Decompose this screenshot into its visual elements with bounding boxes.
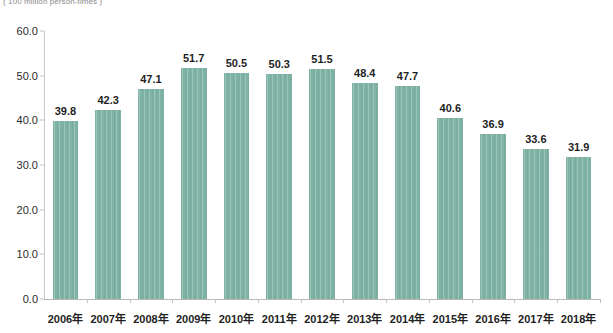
bar[interactable] [95, 110, 121, 299]
bar-value-label: 50.5 [215, 57, 258, 69]
x-axis-tick-mark [343, 299, 344, 303]
bar[interactable] [395, 86, 421, 299]
x-axis-tick-mark [258, 299, 259, 303]
x-axis-tick-mark [172, 299, 173, 303]
x-axis-category-label: 2009年 [172, 310, 215, 326]
bar-value-label: 50.3 [258, 58, 301, 70]
bar[interactable] [181, 68, 207, 299]
bar-value-label: 51.7 [172, 52, 215, 64]
x-axis-tick-mark [557, 299, 558, 303]
x-axis-tick-mark [301, 299, 302, 303]
bar-value-label: 47.7 [386, 70, 429, 82]
x-axis-tick-mark [600, 299, 601, 303]
y-axis-tick-label: 30.0 [2, 159, 38, 171]
bar-value-label: 39.8 [44, 105, 87, 117]
unit-caption-label: ( 100 million person-times ) [3, 0, 102, 6]
bar[interactable] [566, 157, 592, 299]
y-axis-tick-label: 40.0 [2, 114, 38, 126]
bar[interactable] [53, 121, 79, 299]
bar[interactable] [437, 118, 463, 299]
x-axis-category-label: 2013年 [343, 310, 386, 326]
x-axis-category-label: 2011年 [258, 310, 301, 326]
x-axis-tick-mark [87, 299, 88, 303]
x-axis-tick-mark [429, 299, 430, 303]
x-axis-category-label: 2015年 [429, 310, 472, 326]
x-axis-category-label: 2017年 [514, 310, 557, 326]
bar-value-label: 31.9 [557, 141, 600, 153]
bar-value-label: 47.1 [130, 73, 173, 85]
bar-value-label: 40.6 [429, 102, 472, 114]
y-axis-tick-label: 60.0 [2, 25, 38, 37]
x-axis-category-label: 2007年 [87, 310, 130, 326]
bar[interactable] [523, 149, 549, 299]
x-axis-category-label: 2018年 [557, 310, 600, 326]
bar[interactable] [224, 73, 250, 299]
x-axis-category-label: 2012年 [301, 310, 344, 326]
x-axis-tick-mark [215, 299, 216, 303]
plot-area: 39.842.347.151.750.550.351.548.447.740.6… [44, 31, 600, 299]
x-axis-category-label: 2008年 [130, 310, 173, 326]
x-axis-category-label: 2014年 [386, 310, 429, 326]
x-axis-line [44, 299, 600, 300]
bar-chart: ( 100 million person-times ) 0.010.020.0… [0, 0, 613, 333]
bar[interactable] [352, 83, 378, 299]
bar[interactable] [266, 74, 292, 299]
y-axis-tick-label: 0.0 [2, 293, 38, 305]
bar[interactable] [480, 134, 506, 299]
bar-value-label: 48.4 [343, 67, 386, 79]
y-axis-tick-label: 50.0 [2, 70, 38, 82]
bar[interactable] [309, 69, 335, 299]
bar-value-label: 42.3 [87, 94, 130, 106]
y-axis-tick-label: 10.0 [2, 248, 38, 260]
x-axis-category-label: 2010年 [215, 310, 258, 326]
x-axis-category-label: 2016年 [472, 310, 515, 326]
bar[interactable] [138, 89, 164, 299]
x-axis-tick-mark [472, 299, 473, 303]
x-axis-tick-mark [130, 299, 131, 303]
y-axis-tick-label: 20.0 [2, 204, 38, 216]
x-axis-tick-mark [386, 299, 387, 303]
x-axis-tick-mark [514, 299, 515, 303]
bar-value-label: 51.5 [301, 53, 344, 65]
bar-value-label: 36.9 [472, 118, 515, 130]
x-axis-category-label: 2006年 [44, 310, 87, 326]
bar-value-label: 33.6 [514, 133, 557, 145]
